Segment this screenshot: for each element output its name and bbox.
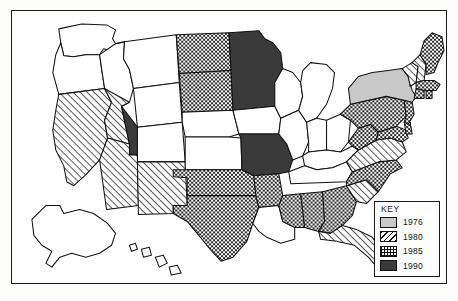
legend-item-1985: 1985 [380,246,436,257]
legend-swatch-1985 [380,246,397,257]
state-WY [133,82,182,127]
state-RI [426,90,432,98]
state-HI [129,243,181,275]
legend-swatch-1990 [380,260,397,271]
state-IN [307,118,327,152]
legend-item-1990: 1990 [380,260,436,271]
state-IA [233,106,281,134]
legend-label-1976: 1976 [403,217,423,227]
legend-title: KEY [381,205,436,214]
state-AK [32,206,116,268]
state-NE [182,110,239,137]
state-KS [185,137,242,170]
state-MI [299,63,335,123]
legend-label-1985: 1985 [403,246,423,256]
map-legend: KEY 1976 1980 1985 1990 [374,201,440,278]
legend-item-1976: 1976 [380,217,436,228]
state-SD [179,71,233,113]
legend-label-1980: 1980 [403,232,423,242]
map-frame: KEY 1976 1980 1985 1990 [11,10,447,284]
state-CT [414,88,424,98]
state-CO [137,122,185,162]
state-ND [176,33,231,74]
state-AL [301,192,325,232]
legend-swatch-1976 [380,217,397,228]
legend-label-1990: 1990 [403,261,423,271]
state-AR [254,174,283,208]
legend-item-1980: 1980 [380,231,436,242]
legend-swatch-1980 [380,231,397,242]
state-OH [327,114,351,152]
state-TX [173,196,259,262]
state-NJ [404,100,414,124]
